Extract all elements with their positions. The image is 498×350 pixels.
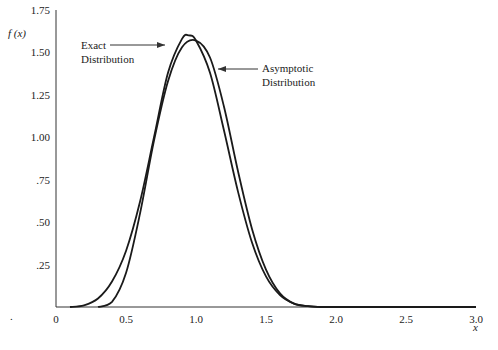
arrow-head-icon bbox=[157, 42, 165, 48]
x-tick-label: 2.0 bbox=[329, 313, 343, 325]
y-tick-label: 1.25 bbox=[31, 89, 51, 101]
x-tick-label: 1.5 bbox=[259, 313, 273, 325]
annotation-exact: Exact Distribution bbox=[81, 39, 165, 65]
x-tick-label: 1.0 bbox=[189, 313, 203, 325]
annotation-asymptotic-line1: Asymptotic bbox=[262, 62, 313, 74]
x-axis-label: x bbox=[472, 321, 478, 333]
y-tick-label: .50 bbox=[36, 216, 50, 228]
y-axis-label: f (x) bbox=[8, 27, 26, 40]
annotation-asymptotic-line2: Distribution bbox=[262, 76, 316, 88]
origin-dot: . bbox=[10, 310, 13, 322]
y-tick-label: .75 bbox=[36, 174, 50, 186]
annotation-asymptotic: Asymptotic Distribution bbox=[218, 62, 316, 88]
annotation-exact-line1: Exact bbox=[81, 39, 106, 51]
y-tick-label: 1.75 bbox=[31, 4, 51, 16]
y-tick-labels: .25.50.751.001.251.501.75 bbox=[31, 4, 51, 271]
x-tick-label: 2.5 bbox=[399, 313, 413, 325]
arrow-head-icon bbox=[218, 66, 226, 72]
x-tick-label: 0.5 bbox=[119, 313, 133, 325]
y-tick-label: 1.00 bbox=[31, 131, 51, 143]
x-tick-label: 0 bbox=[53, 313, 59, 325]
annotation-exact-line2: Distribution bbox=[81, 53, 135, 65]
x-tick-labels: 00.51.01.52.02.53.0 bbox=[53, 313, 483, 325]
density-chart: .25.50.751.001.251.501.75 00.51.01.52.02… bbox=[0, 0, 498, 350]
y-tick-label: .25 bbox=[36, 259, 50, 271]
y-tick-label: 1.50 bbox=[31, 46, 51, 58]
